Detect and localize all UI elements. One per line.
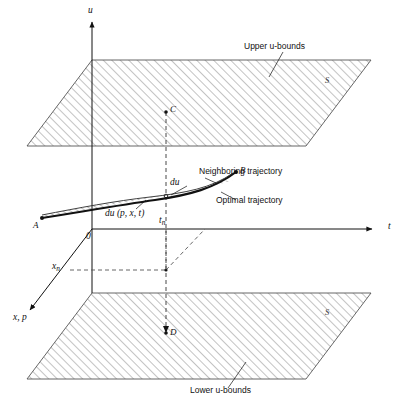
lower-bounds-caption: Lower u-bounds	[190, 386, 251, 395]
lower-bound-plane	[27, 293, 371, 379]
x-value-subscript: n	[56, 264, 60, 273]
x-p-axis-line	[30, 229, 92, 310]
t-axis-label: t	[388, 222, 391, 232]
du-label: du	[170, 178, 180, 188]
point-label-C: C	[170, 105, 176, 114]
point-label-D: D	[170, 328, 177, 337]
point-label-A: A	[33, 221, 39, 230]
t-final-subscript: n	[162, 218, 166, 227]
x-value-tick-label: xn	[52, 262, 60, 272]
optimal-trajectory-label: Optimal trajectory	[216, 196, 283, 205]
lower-plane-surface-label: S	[325, 308, 329, 317]
point-label-B: B	[240, 166, 246, 175]
u-axis-label: u	[88, 6, 93, 16]
upper-bounds-caption: Upper u-bounds	[244, 42, 305, 51]
t-final-tick-label: tn	[159, 216, 165, 226]
upper-bound-plane	[27, 60, 371, 146]
origin-label: 0	[86, 232, 91, 242]
upper-plane-surface-label: S	[325, 76, 329, 85]
du-full-label: du (p, x, t)	[105, 209, 144, 219]
diagram-canvas	[0, 0, 405, 403]
x-p-axis-label: x, p	[13, 313, 27, 323]
optimal-control-diagram: u t x, p 0 Upper u-bounds S Lower u-boun…	[0, 0, 405, 403]
